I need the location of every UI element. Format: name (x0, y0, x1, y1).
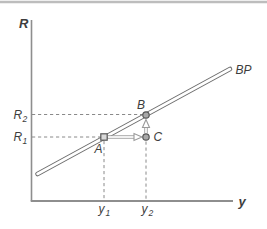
bp-curve-inner (38, 69, 231, 174)
arrow-up-head (143, 120, 150, 128)
diagram-canvas: R y R 2 R 1 y 1 y 2 A B C BP (0, 0, 267, 229)
tick-y1-base: y (98, 202, 106, 216)
bp-curve-label: BP (236, 63, 252, 77)
point-a-label: A (93, 142, 102, 156)
y-axis-title: R (19, 16, 29, 31)
tick-y2-subscript: 2 (148, 208, 154, 218)
bp-curve-figure: R y R 2 R 1 y 1 y 2 A B C BP (0, 0, 267, 229)
point-a-marker (101, 134, 107, 140)
arrow-right-head (134, 134, 142, 141)
x-axis-title: y (238, 194, 247, 209)
tick-y1-subscript: 1 (106, 208, 111, 218)
point-c-label: C (154, 130, 163, 144)
tick-r1-base: R (14, 130, 23, 144)
tick-r1-subscript: 1 (23, 136, 28, 146)
point-b-marker (143, 112, 149, 118)
point-c-marker (143, 134, 149, 140)
tick-r2-base: R (14, 108, 23, 122)
tick-r2-subscript: 2 (22, 114, 28, 124)
point-b-label: B (137, 98, 145, 112)
tick-y2-base: y (141, 202, 149, 216)
